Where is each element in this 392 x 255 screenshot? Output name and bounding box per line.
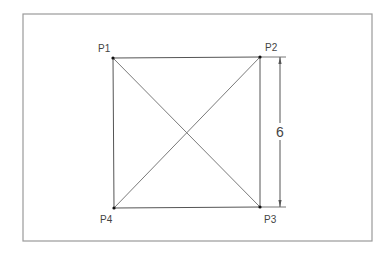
vertex-p4-label: P4 [100,214,113,225]
dimension-label: 6 [276,124,284,140]
vertex-p1-label: P1 [98,43,111,54]
edge-p3-p4 [114,207,260,208]
vertex-p4-dot [112,206,115,209]
edge-p1-p2 [113,57,260,58]
arrowhead-up-icon [278,57,281,64]
vertex-p2-dot [258,55,261,58]
diagonals [113,57,260,208]
vertex-p2-label: P2 [265,42,278,53]
edge-p4-p1 [113,58,114,208]
vertex-p3-dot [258,205,261,208]
arrowhead-down-icon [278,200,281,207]
diagram-canvas: 6 P1P2P3P4 [0,0,392,255]
vertex-p1-dot [111,56,114,59]
vertex-p3-label: P3 [264,214,277,225]
dimension-annotation: 6 [260,57,286,207]
